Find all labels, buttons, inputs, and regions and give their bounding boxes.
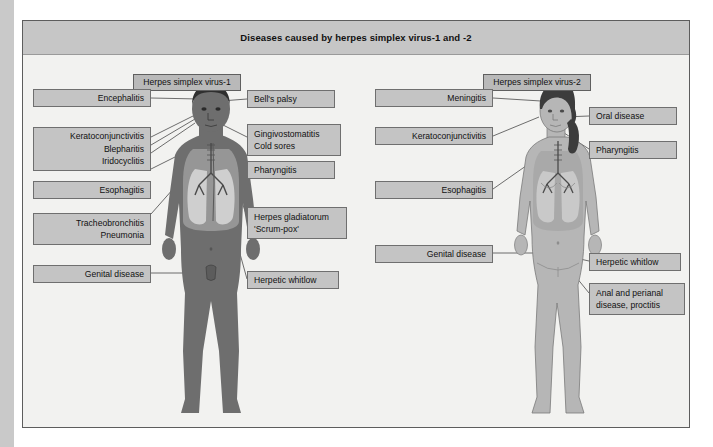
label-gingivostomatitis-group: Gingivostomatitis Cold sores [247,124,341,156]
label-esophagitis-female: Esophagitis [375,181,493,199]
label-oral-disease: Oral disease [589,107,677,125]
label-bells-palsy: Bell's palsy [247,90,335,108]
label-keratoconjunctivitis-group: Keratoconjunctivitis Blepharitis Iridocy… [33,127,151,171]
label-pharyngitis-female: Pharyngitis [589,141,677,159]
label-herpetic-whitlow-male: Herpetic whitlow [247,271,339,289]
label-herpetic-whitlow-female: Herpetic whitlow [589,253,681,271]
label-encephalitis: Encephalitis [33,89,151,107]
label-meningitis: Meningitis [375,89,493,107]
label-anal-perianal-group: Anal and perianal disease, proctitis [589,283,685,315]
figure-panel: Diseases caused by herpes simplex virus-… [22,20,690,428]
diagram-root: Diseases caused by herpes simplex virus-… [0,0,713,447]
label-genital-disease-female: Genital disease [375,245,493,263]
label-genital-disease-male: Genital disease [33,265,151,283]
female-figure [515,82,602,413]
header-hsv2: Herpes simplex virus-2 [483,74,591,91]
label-tracheobronchitis-group: Tracheobronchitis Pneumonia [33,213,151,245]
label-pharyngitis-male: Pharyngitis [247,161,335,179]
label-keratoconjunctivitis-female: Keratoconjunctivitis [375,127,493,145]
label-herpes-gladiatorum-group: Herpes gladiatorum 'Scrum-pox' [247,207,347,239]
page-gutter [0,0,14,447]
label-esophagitis: Esophagitis [33,181,151,199]
male-figure [162,83,260,413]
